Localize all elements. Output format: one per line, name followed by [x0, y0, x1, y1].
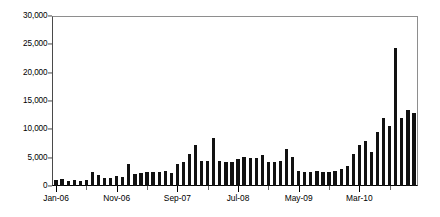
x-axis-tick-label: Sep-07 — [164, 194, 191, 203]
bar — [139, 173, 142, 186]
x-axis-minor-tick — [147, 186, 148, 190]
bar — [127, 164, 130, 186]
bar — [346, 166, 349, 186]
bar — [382, 118, 385, 186]
bar — [121, 177, 124, 186]
bar — [394, 48, 397, 186]
y-axis-tick-mark — [48, 15, 53, 16]
bar — [352, 154, 355, 186]
x-axis-major-tick — [299, 186, 300, 192]
bar — [315, 171, 318, 186]
bar — [255, 158, 258, 186]
y-axis-tick-mark — [48, 129, 53, 130]
x-axis-major-tick — [359, 186, 360, 192]
x-axis-minor-tick — [268, 186, 269, 190]
x-axis: Jan-06Nov-06Sep-07Jul-08May-09Mar-10 — [52, 186, 418, 217]
bar — [340, 169, 343, 186]
x-axis-major-tick — [238, 186, 239, 192]
x-axis-major-tick — [56, 186, 57, 192]
bar — [194, 145, 197, 186]
bar-series — [53, 17, 417, 186]
x-axis-major-tick — [177, 186, 178, 192]
y-axis-tick-mark — [48, 72, 53, 73]
bar — [212, 138, 215, 186]
bar — [261, 155, 264, 186]
bar — [291, 157, 294, 186]
x-axis-major-tick — [117, 186, 118, 192]
bar — [109, 178, 112, 186]
bar — [279, 161, 282, 186]
bar — [182, 162, 185, 186]
bar — [406, 110, 409, 186]
bar — [158, 172, 161, 186]
bar — [327, 172, 330, 186]
bar — [170, 173, 173, 186]
bar — [400, 118, 403, 186]
y-axis: 05,00010,00015,00020,00025,00030,000 — [0, 0, 52, 217]
bar — [412, 113, 415, 186]
bar — [224, 162, 227, 186]
bar — [297, 171, 300, 186]
x-axis-tick-label: Mar-10 — [346, 194, 373, 203]
bar — [97, 175, 100, 186]
bar — [145, 172, 148, 186]
y-axis-tick-mark — [48, 157, 53, 158]
x-axis-tick-label: May-09 — [285, 194, 313, 203]
bar — [303, 172, 306, 186]
bar — [273, 162, 276, 186]
bar — [364, 141, 367, 186]
bar — [206, 161, 209, 186]
bar — [285, 149, 288, 186]
x-axis-minor-tick — [329, 186, 330, 190]
bar — [176, 164, 179, 186]
x-axis-minor-tick — [208, 186, 209, 190]
x-axis-tick-label: Nov-06 — [103, 194, 130, 203]
bar — [218, 161, 221, 186]
bar — [164, 171, 167, 186]
bar — [200, 161, 203, 186]
bar — [376, 132, 379, 186]
bar — [358, 145, 361, 186]
bar — [133, 174, 136, 186]
bar — [309, 172, 312, 186]
y-axis-tick-mark — [48, 100, 53, 101]
bar — [388, 126, 391, 186]
bar — [188, 154, 191, 186]
bar-chart: 05,00010,00015,00020,00025,00030,000 Jan… — [0, 0, 440, 217]
x-axis-minor-tick — [390, 186, 391, 190]
bar — [333, 171, 336, 186]
bar — [321, 172, 324, 186]
bar — [230, 162, 233, 186]
bar — [60, 179, 63, 186]
x-axis-tick-label: Jul-08 — [227, 194, 250, 203]
x-axis-tick-label: Jan-06 — [43, 194, 69, 203]
x-axis-minor-tick — [86, 186, 87, 190]
bar — [242, 157, 245, 186]
y-axis-tick-mark — [48, 44, 53, 45]
bar — [103, 178, 106, 186]
bar — [267, 162, 270, 186]
bar — [249, 158, 252, 186]
bar — [236, 159, 239, 186]
bar — [151, 172, 154, 186]
bar — [91, 172, 94, 186]
bar — [115, 176, 118, 186]
bar — [370, 152, 373, 186]
